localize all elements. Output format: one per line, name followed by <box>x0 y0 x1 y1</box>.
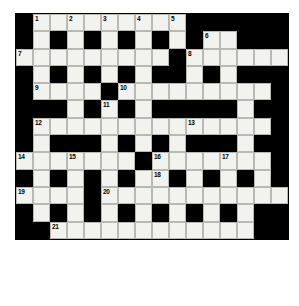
crossword-cell-open[interactable] <box>50 14 67 31</box>
crossword-cell-open[interactable] <box>152 222 169 239</box>
crossword-cell-open[interactable]: 18 <box>152 170 169 187</box>
crossword-cell-open[interactable] <box>203 187 220 204</box>
crossword-cell-open[interactable]: 11 <box>101 100 118 117</box>
crossword-cell-open[interactable] <box>84 83 101 100</box>
crossword-cell-open[interactable] <box>220 170 237 187</box>
crossword-cell-open[interactable] <box>101 49 118 66</box>
crossword-cell-open[interactable] <box>254 83 271 100</box>
crossword-cell-open[interactable]: 15 <box>67 152 84 169</box>
crossword-cell-open[interactable] <box>135 100 152 117</box>
crossword-cell-open[interactable]: 10 <box>118 83 135 100</box>
crossword-cell-open[interactable] <box>67 49 84 66</box>
crossword-cell-open[interactable] <box>67 31 84 48</box>
crossword-cell-open[interactable]: 20 <box>101 187 118 204</box>
crossword-cell-open[interactable] <box>50 49 67 66</box>
crossword-cell-open[interactable] <box>135 187 152 204</box>
crossword-cell-open[interactable] <box>254 118 271 135</box>
crossword-cell-open[interactable] <box>203 152 220 169</box>
crossword-cell-open[interactable]: 4 <box>135 14 152 31</box>
crossword-cell-open[interactable]: 17 <box>220 152 237 169</box>
crossword-cell-open[interactable]: 8 <box>186 49 203 66</box>
crossword-cell-open[interactable] <box>101 135 118 152</box>
crossword-cell-open[interactable]: 5 <box>169 14 186 31</box>
crossword-cell-open[interactable] <box>135 66 152 83</box>
crossword-cell-open[interactable]: 12 <box>33 118 50 135</box>
crossword-cell-open[interactable]: 6 <box>203 31 220 48</box>
crossword-cell-open[interactable] <box>254 49 271 66</box>
crossword-cell-open[interactable]: 14 <box>16 152 33 169</box>
crossword-cell-open[interactable] <box>169 222 186 239</box>
crossword-cell-open[interactable] <box>118 118 135 135</box>
crossword-cell-open[interactable] <box>237 83 254 100</box>
crossword-cell-open[interactable] <box>203 222 220 239</box>
crossword-cell-open[interactable] <box>101 66 118 83</box>
crossword-cell-open[interactable] <box>50 83 67 100</box>
crossword-cell-open[interactable] <box>101 170 118 187</box>
crossword-cell-open[interactable] <box>135 170 152 187</box>
crossword-cell-open[interactable] <box>50 118 67 135</box>
crossword-cell-open[interactable] <box>203 49 220 66</box>
crossword-cell-open[interactable] <box>67 83 84 100</box>
crossword-cell-open[interactable] <box>203 204 220 221</box>
crossword-cell-open[interactable]: 9 <box>33 83 50 100</box>
crossword-cell-open[interactable] <box>237 152 254 169</box>
crossword-cell-open[interactable]: 13 <box>186 118 203 135</box>
crossword-cell-open[interactable] <box>101 152 118 169</box>
crossword-cell-open[interactable] <box>169 31 186 48</box>
crossword-cell-open[interactable] <box>67 118 84 135</box>
crossword-cell-open[interactable] <box>220 222 237 239</box>
crossword-cell-open[interactable] <box>186 83 203 100</box>
crossword-cell-open[interactable] <box>237 118 254 135</box>
crossword-cell-open[interactable] <box>220 66 237 83</box>
crossword-cell-open[interactable] <box>254 152 271 169</box>
crossword-cell-open[interactable] <box>135 83 152 100</box>
crossword-cell-open[interactable] <box>67 204 84 221</box>
crossword-cell-open[interactable] <box>118 49 135 66</box>
crossword-cell-open[interactable] <box>84 49 101 66</box>
crossword-cell-open[interactable] <box>220 49 237 66</box>
crossword-cell-open[interactable] <box>101 118 118 135</box>
crossword-cell-open[interactable] <box>67 222 84 239</box>
crossword-cell-open[interactable] <box>237 49 254 66</box>
crossword-cell-open[interactable] <box>186 170 203 187</box>
crossword-cell-open[interactable] <box>186 66 203 83</box>
crossword-cell-open[interactable] <box>33 31 50 48</box>
crossword-cell-open[interactable] <box>203 118 220 135</box>
crossword-cell-open[interactable] <box>203 83 220 100</box>
crossword-cell-open[interactable] <box>169 204 186 221</box>
crossword-cell-open[interactable]: 1 <box>33 14 50 31</box>
crossword-cell-open[interactable] <box>169 187 186 204</box>
crossword-cell-open[interactable] <box>254 170 271 187</box>
crossword-cell-open[interactable] <box>84 118 101 135</box>
crossword-cell-open[interactable] <box>33 66 50 83</box>
crossword-cell-open[interactable] <box>237 222 254 239</box>
crossword-cell-open[interactable] <box>271 187 288 204</box>
crossword-cell-open[interactable] <box>101 31 118 48</box>
crossword-grid[interactable]: 123456789101112131415161718192021 <box>15 13 289 240</box>
crossword-cell-open[interactable] <box>237 187 254 204</box>
crossword-cell-open[interactable] <box>169 135 186 152</box>
crossword-cell-open[interactable] <box>135 135 152 152</box>
crossword-cell-open[interactable] <box>101 222 118 239</box>
crossword-cell-open[interactable]: 21 <box>50 222 67 239</box>
crossword-cell-open[interactable] <box>118 14 135 31</box>
crossword-cell-open[interactable] <box>220 118 237 135</box>
crossword-cell-open[interactable] <box>118 187 135 204</box>
crossword-cell-open[interactable] <box>135 49 152 66</box>
crossword-cell-open[interactable] <box>135 222 152 239</box>
crossword-cell-open[interactable] <box>33 170 50 187</box>
crossword-cell-open[interactable] <box>33 135 50 152</box>
crossword-cell-open[interactable] <box>169 83 186 100</box>
crossword-cell-open[interactable]: 7 <box>16 49 33 66</box>
crossword-cell-open[interactable]: 19 <box>16 187 33 204</box>
crossword-cell-open[interactable] <box>220 187 237 204</box>
crossword-cell-open[interactable] <box>220 83 237 100</box>
crossword-cell-open[interactable] <box>135 118 152 135</box>
crossword-cell-open[interactable] <box>67 66 84 83</box>
crossword-cell-open[interactable] <box>152 118 169 135</box>
crossword-cell-open[interactable] <box>84 222 101 239</box>
crossword-cell-open[interactable] <box>152 49 169 66</box>
crossword-cell-open[interactable] <box>271 49 288 66</box>
crossword-cell-open[interactable] <box>254 187 271 204</box>
crossword-cell-open[interactable] <box>135 204 152 221</box>
